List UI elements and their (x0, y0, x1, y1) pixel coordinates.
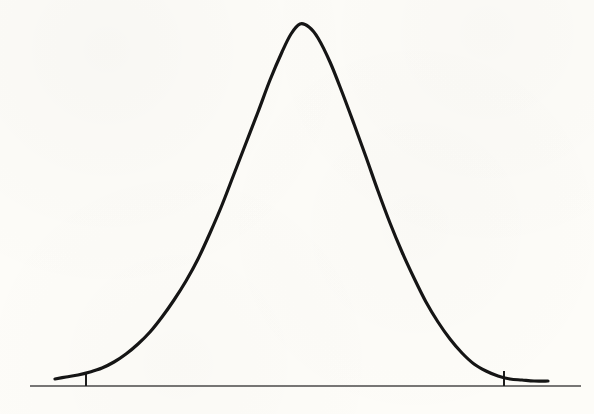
bell-curve-canvas (0, 0, 594, 414)
bell-curve-figure (0, 0, 594, 414)
figure-background (0, 0, 594, 414)
